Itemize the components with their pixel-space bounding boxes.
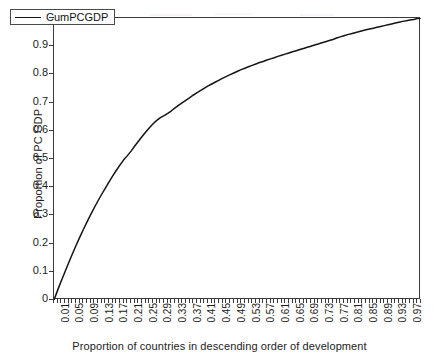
x-tick-label: 0.01 (61, 303, 71, 337)
x-tick-label: 0.73 (325, 303, 335, 337)
x-tick-label: 0.61 (281, 303, 291, 337)
legend-label-cumpcgdp: CumPCGDP (46, 12, 108, 23)
x-tick-label: 0.45 (222, 303, 232, 337)
x-tick-label: 0.41 (207, 303, 217, 337)
y-tick-mark (49, 299, 54, 300)
y-tick-mark (49, 102, 54, 103)
x-tick-label: 0.81 (354, 303, 364, 337)
legend[interactable]: CumPCGDP (10, 9, 115, 25)
y-tick-mark (49, 243, 54, 244)
x-axis-title: Proportion of countries in descending or… (0, 340, 439, 352)
x-tick-label: 0.97 (413, 303, 423, 337)
x-tick-label: 0.77 (340, 303, 350, 337)
x-tick-label: 0.25 (149, 303, 159, 337)
y-tick-mark (49, 271, 54, 272)
x-tick-label: 0.17 (119, 303, 129, 337)
x-axis-tick-labels: 0.010.050.090.130.170.210.250.290.330.37… (0, 0, 439, 361)
y-tick-mark (49, 45, 54, 46)
x-tick-label: 0.93 (398, 303, 408, 337)
y-tick-mark (49, 17, 54, 18)
x-tick-label: 0.53 (252, 303, 262, 337)
legend-line-swatch (15, 17, 41, 18)
x-tick-label: 0.89 (384, 303, 394, 337)
figure-canvas: Proportion of PC GDP 00.10.20.30.40.50.6… (0, 0, 439, 361)
x-tick-label: 0.29 (163, 303, 173, 337)
x-tick-label: 0.49 (237, 303, 247, 337)
x-tick-label: 0.05 (75, 303, 85, 337)
y-tick-mark (49, 214, 54, 215)
x-tick-label: 0.33 (178, 303, 188, 337)
x-tick-label: 0.37 (193, 303, 203, 337)
x-tick-label: 0.13 (105, 303, 115, 337)
x-tick-label: 0.09 (90, 303, 100, 337)
y-tick-mark (49, 130, 54, 131)
x-tick-label: 0.65 (296, 303, 306, 337)
y-tick-mark (49, 73, 54, 74)
x-tick-label: 0.21 (134, 303, 144, 337)
x-tick-label: 0.57 (266, 303, 276, 337)
x-tick-label: 0.85 (369, 303, 379, 337)
y-tick-mark (49, 158, 54, 159)
y-tick-mark (49, 186, 54, 187)
x-tick-label: 0.69 (310, 303, 320, 337)
